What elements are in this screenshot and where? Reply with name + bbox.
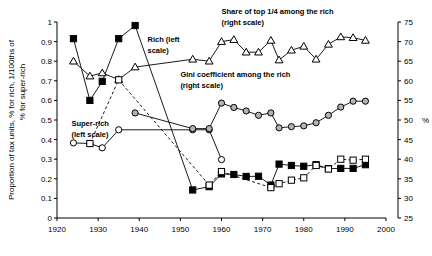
gini-label-line1: Gini coefficient among the rich — [180, 70, 290, 79]
data-point-marker — [132, 110, 138, 116]
data-point-marker — [218, 156, 224, 162]
data-point-marker — [87, 97, 93, 103]
data-point-marker — [255, 112, 261, 118]
right-axis-tick-label: 45 — [404, 136, 413, 145]
data-point-marker — [276, 161, 282, 167]
data-point-marker — [338, 165, 344, 171]
data-point-marker — [350, 98, 356, 104]
left-axis-tick-label: 0 — [48, 214, 53, 223]
data-point-marker — [362, 98, 368, 104]
data-point-marker — [301, 123, 307, 129]
right-axis-tick-label: 70 — [404, 38, 413, 47]
super-rich-label-line2: (left scale) — [71, 130, 109, 139]
right-axis-tick-label: 25 — [404, 214, 413, 223]
share-top-quarter-label-line2: (right scale) — [222, 18, 265, 27]
x-axis-tick-label: 1920 — [48, 225, 66, 234]
left-axis-title-line1: Proportion of tax units, % for rich, 1/1… — [7, 39, 16, 200]
data-point-marker — [301, 163, 307, 169]
data-point-marker — [313, 120, 319, 126]
data-point-marker — [325, 112, 331, 118]
left-axis-tick-label: 0.1 — [41, 194, 53, 203]
data-point-marker — [190, 126, 196, 132]
left-axis-tick-label: 0.2 — [41, 175, 53, 184]
data-point-marker — [288, 162, 294, 168]
data-point-marker — [99, 145, 105, 151]
share-top-quarter-label-line1: Share of top 1/4 among the rich — [222, 7, 335, 16]
data-point-marker — [301, 175, 307, 181]
left-axis-tick-label: 0.8 — [41, 57, 53, 66]
left-axis-tick-label: 0.6 — [41, 96, 53, 105]
data-point-marker — [288, 124, 294, 130]
data-point-marker — [190, 187, 196, 193]
data-point-marker — [218, 100, 224, 106]
data-point-marker — [350, 157, 356, 163]
data-point-marker — [206, 126, 212, 132]
data-point-marker — [70, 140, 76, 146]
x-axis-tick-label: 1940 — [130, 225, 148, 234]
data-point-marker — [276, 181, 282, 187]
data-point-marker — [276, 125, 282, 131]
right-axis-tick-label: 35 — [404, 175, 413, 184]
data-point-marker — [87, 140, 93, 146]
data-point-marker — [231, 171, 237, 177]
data-point-marker — [325, 166, 331, 172]
rich-label-line2: scale) — [147, 46, 169, 55]
data-point-marker — [362, 156, 368, 162]
data-point-marker — [70, 36, 76, 42]
data-point-marker — [288, 177, 294, 183]
x-axis-tick-label: 1930 — [89, 225, 107, 234]
data-point-marker — [218, 168, 224, 174]
data-point-marker — [268, 110, 274, 116]
data-point-marker — [338, 156, 344, 162]
super-rich-label-line1: Super-rich — [71, 119, 109, 128]
data-point-marker — [350, 165, 356, 171]
left-axis-tick-label: 0.5 — [41, 116, 53, 125]
x-axis-tick-label: 2000 — [377, 225, 395, 234]
right-axis-tick-label: 75 — [404, 18, 413, 27]
data-point-marker — [243, 108, 249, 114]
right-axis-tick-label: 50 — [404, 116, 413, 125]
left-axis-tick-label: 0.4 — [41, 136, 53, 145]
gini-label-line2: (right scale) — [180, 81, 223, 90]
x-axis-tick-label: 1990 — [336, 225, 354, 234]
data-point-marker — [255, 173, 261, 179]
data-point-marker — [206, 182, 212, 188]
data-point-marker — [99, 78, 105, 84]
right-axis-tick-label: 40 — [404, 155, 413, 164]
left-axis-tick-label: 1 — [48, 18, 53, 27]
data-point-marker — [116, 36, 122, 42]
right-axis-tick-label: 65 — [404, 57, 413, 66]
left-axis-tick-label: 0.9 — [41, 38, 53, 47]
data-point-marker — [132, 22, 138, 28]
data-point-marker — [116, 127, 122, 133]
x-axis-tick-label: 1950 — [171, 225, 189, 234]
right-axis-tick-label: 30 — [404, 194, 413, 203]
rich-label-line1: Rich (left — [147, 35, 180, 44]
right-axis-tick-label: 60 — [404, 77, 413, 86]
x-axis-tick-label: 1980 — [295, 225, 313, 234]
data-point-marker — [231, 104, 237, 110]
data-point-marker — [116, 77, 122, 83]
right-axis-tick-label: 55 — [404, 96, 413, 105]
data-point-marker — [313, 162, 319, 168]
left-axis-tick-label: 0.3 — [41, 155, 53, 164]
chart-container: 00.10.20.30.40.50.60.70.80.9125303540455… — [0, 0, 432, 256]
left-axis-title-line2: % for super-rich — [18, 64, 27, 120]
data-point-marker — [268, 185, 274, 191]
right-axis-title: % — [422, 116, 429, 125]
x-axis-tick-label: 1970 — [254, 225, 272, 234]
left-axis-tick-label: 0.7 — [41, 77, 53, 86]
data-point-marker — [338, 104, 344, 110]
x-axis-tick-label: 1960 — [213, 225, 231, 234]
chart-canvas: 00.10.20.30.40.50.60.70.80.9125303540455… — [0, 0, 432, 256]
